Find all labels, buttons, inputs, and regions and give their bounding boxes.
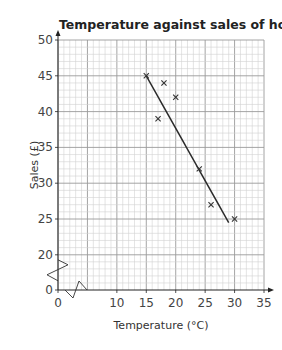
y-tick-label: 45 (38, 69, 53, 83)
y-tick-label: 40 (38, 105, 53, 119)
x-tick-label: 35 (256, 296, 271, 310)
chart-title: Temperature against sales of hot drinks (59, 17, 282, 32)
y-tick-label: 0 (45, 283, 53, 297)
y-axis-label: Sales (£) (28, 141, 41, 189)
x-axis-label: Temperature (°C) (113, 319, 209, 332)
y-tick-label: 20 (38, 248, 53, 262)
x-tick-label: 25 (198, 296, 213, 310)
y-tick-label: 25 (38, 212, 53, 226)
y-tick-label: 50 (38, 33, 53, 47)
x-tick-labels: 0101520253035 (54, 290, 271, 310)
x-tick-label: 20 (168, 296, 183, 310)
x-tick-label: 0 (54, 296, 62, 310)
grid (58, 40, 264, 290)
axis-break-zigzags (47, 260, 87, 298)
x-tick-label: 15 (139, 296, 154, 310)
axes (56, 30, 275, 293)
x-tick-label: 30 (227, 296, 242, 310)
scatter-chart: Temperature against sales of hot drinks … (0, 0, 282, 350)
x-tick-label: 10 (109, 296, 124, 310)
